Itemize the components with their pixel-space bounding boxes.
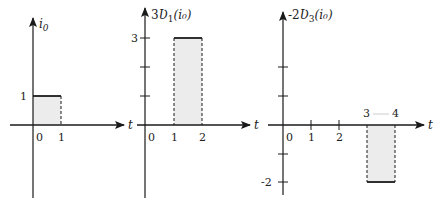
x-tick-1: 1	[58, 131, 65, 144]
x-tick-3: 3	[363, 107, 370, 120]
y-tick-3: 3	[131, 32, 138, 45]
x-label: t	[428, 118, 433, 132]
y-label: -2Ʋ3(i₀)	[288, 8, 333, 24]
x-tick-2: 2	[336, 131, 343, 144]
shaded-area	[367, 125, 395, 182]
shaded-area	[33, 96, 61, 125]
x-tick-1: 1	[308, 131, 315, 144]
panel-i0: i0 t 0 1 1	[10, 17, 133, 198]
y-label: 3Ʋ1(i₀)	[151, 8, 192, 24]
y-label: i0	[39, 17, 49, 33]
y-tick-neg2: -2	[261, 176, 272, 189]
x-tick-2: 2	[199, 131, 206, 144]
panel-3v1: 3Ʋ1(i₀) t 0 1 2 3	[131, 8, 259, 198]
x-label: t	[128, 118, 133, 132]
x-label: t	[254, 118, 259, 132]
x-tick-0: 0	[36, 131, 43, 144]
x-tick-1: 1	[171, 131, 178, 144]
x-tick-0: 0	[148, 131, 155, 144]
x-tick-4: 4	[392, 107, 399, 120]
diagram: i0 t 0 1 1 3Ʋ1(i₀) t 0 1 2 3	[0, 0, 444, 209]
y-tick-1: 1	[20, 90, 27, 103]
panel-neg2v3: -2Ʋ3(i₀) t 0 1 2 3 4 -2	[261, 8, 433, 195]
x-tick-0: 0	[286, 131, 293, 144]
shaded-area	[174, 38, 202, 125]
